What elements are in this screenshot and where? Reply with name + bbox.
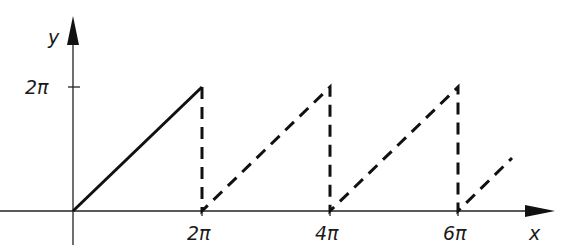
sawtooth-diagram: y 2π 2π 4π 6π x — [0, 0, 579, 251]
y-axis-label: y — [47, 26, 60, 48]
x-tick-label-6pi: 6π — [443, 222, 467, 244]
y-tick-label-2pi: 2π — [25, 76, 49, 98]
x-tick-label-2pi: 2π — [187, 222, 211, 244]
dashed-extension — [202, 87, 512, 211]
solid-ramp — [73, 87, 202, 211]
x-axis-arrow-icon — [525, 205, 555, 217]
x-axis-label: x — [528, 222, 541, 244]
x-tick-label-4pi: 4π — [315, 222, 339, 244]
y-axis-arrow-icon — [67, 16, 79, 45]
